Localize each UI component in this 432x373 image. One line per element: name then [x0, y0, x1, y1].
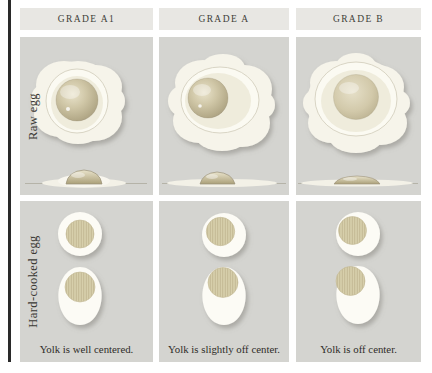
- panel-cooked-grade-b: Yolk is off center.: [296, 201, 421, 362]
- panel-cooked-grade-a1: Yolk is well centered.: [20, 201, 153, 362]
- yolk-caption-a: Yolk is slightly off center.: [159, 343, 289, 355]
- raw-egg-side-view: [25, 170, 147, 188]
- cooked-egg-illustration-a1: [20, 201, 153, 362]
- panel-cooked-grade-a: Yolk is slightly off center.: [159, 201, 289, 362]
- raw-egg-top-view: [168, 54, 275, 151]
- cooked-egg-longitudinal-section: [58, 267, 101, 325]
- panel-raw-grade-b: [296, 37, 421, 195]
- grade-header-a-label: GRADE A: [198, 14, 249, 24]
- raw-egg-illustration-b: [296, 37, 421, 195]
- cooked-egg-cross-section: [336, 212, 380, 256]
- grade-header-b: GRADE B: [296, 8, 421, 30]
- grade-header-a1: GRADE A1: [20, 8, 153, 30]
- cooked-egg-cross-section: [58, 212, 102, 256]
- raw-egg-side-view: [298, 176, 418, 187]
- raw-egg-illustration-a: [159, 37, 289, 195]
- yolk-caption-a1: Yolk is well centered.: [20, 343, 153, 355]
- panel-raw-grade-a: [159, 37, 289, 195]
- raw-egg-top-view: [303, 53, 410, 153]
- cooked-egg-illustration-a: [159, 201, 289, 362]
- raw-egg-illustration-a1: [20, 37, 153, 195]
- cooked-egg-cross-section: [202, 213, 246, 257]
- grade-header-b-label: GRADE B: [333, 14, 384, 24]
- page-root: GRADE A1 GRADE A GRADE B: [0, 0, 432, 373]
- yolk-caption-b: Yolk is off center.: [296, 343, 421, 355]
- cooked-egg-longitudinal-section: [202, 267, 245, 325]
- grade-header-a: GRADE A: [159, 8, 289, 30]
- raw-egg-top-view: [31, 61, 125, 144]
- grade-header-a1-label: GRADE A1: [58, 14, 115, 24]
- page-edge-rule: [8, 0, 11, 362]
- panel-raw-grade-a1: [20, 37, 153, 195]
- cooked-egg-illustration-b: [296, 201, 421, 362]
- cooked-egg-longitudinal-section: [336, 266, 380, 324]
- raw-egg-side-view: [162, 172, 286, 187]
